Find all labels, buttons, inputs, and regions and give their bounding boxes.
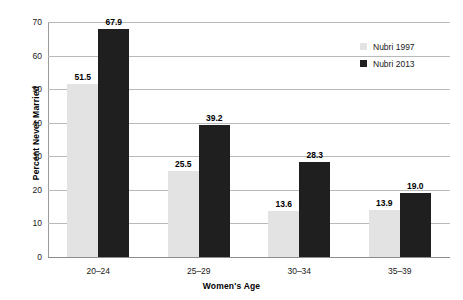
y-axis-tick-label: 0 [16,252,42,262]
legend-label: Nubri 2013 [373,59,415,69]
bar-chart: Percent Never Married 010203040506070 51… [0,0,463,300]
y-axis-tick-label: 50 [16,84,42,94]
x-axis-category-label: 20–24 [86,266,110,276]
bar-value-label: 19.0 [407,181,424,191]
y-axis-tick-label: 20 [16,185,42,195]
y-axis-tick-label: 30 [16,151,42,161]
bar [168,171,199,257]
bar [369,210,400,257]
x-axis-category-label: 35–39 [388,266,412,276]
bar [98,29,129,257]
x-axis-category-label: 25–29 [187,266,211,276]
bar [268,211,299,257]
bar [67,84,98,257]
x-axis-line [48,257,450,258]
legend-item: Nubri 1997 [360,38,456,55]
chart-legend: Nubri 1997Nubri 2013 [360,38,456,72]
y-axis-tick-labels: 010203040506070 [14,22,42,257]
bar [400,193,431,257]
bar-value-label: 28.3 [306,150,323,160]
legend-item: Nubri 2013 [360,55,456,72]
bar-value-label: 67.9 [105,17,122,27]
y-axis-tick-label: 70 [16,17,42,27]
legend-swatch-icon [360,60,367,67]
y-axis-tick-label: 40 [16,118,42,128]
legend-label: Nubri 1997 [373,42,415,52]
x-axis-category-label: 30–34 [287,266,311,276]
bar-value-label: 25.5 [175,159,192,169]
y-axis-tick-label: 60 [16,51,42,61]
legend-swatch-icon [360,43,367,50]
x-axis-title: Women's Age [0,281,463,291]
y-axis-tick-label: 10 [16,218,42,228]
bar-value-label: 51.5 [74,72,91,82]
bar [299,162,330,257]
bar-value-label: 13.6 [275,199,292,209]
bar-value-label: 13.9 [376,198,393,208]
bar [199,125,230,257]
bar-value-label: 39.2 [206,113,223,123]
